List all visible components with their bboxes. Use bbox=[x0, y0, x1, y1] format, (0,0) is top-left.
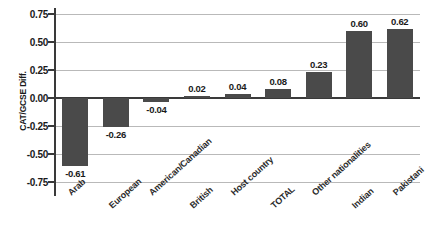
bar bbox=[225, 94, 251, 98]
bar-value-label: 0.60 bbox=[337, 18, 381, 29]
gridline bbox=[55, 154, 420, 155]
bar bbox=[265, 89, 291, 98]
bar-value-label: 0.02 bbox=[175, 83, 219, 94]
bar-value-label: 0.08 bbox=[256, 76, 300, 87]
x-axis-label: Other nationalities bbox=[310, 140, 373, 198]
bar-value-label: 0.23 bbox=[297, 59, 341, 70]
x-axis-label: Host country bbox=[229, 154, 275, 197]
y-tick-label: 0.75 bbox=[6, 9, 48, 20]
bar bbox=[387, 29, 413, 98]
bar bbox=[143, 98, 169, 102]
x-axis-label: TOTAL bbox=[269, 184, 297, 210]
y-tick-label: -0.50 bbox=[6, 149, 48, 160]
x-axis-label: British bbox=[188, 185, 215, 211]
bar bbox=[103, 98, 129, 127]
y-tick-label: 0.50 bbox=[6, 37, 48, 48]
plot-area: 0.750.500.250.00-0.25-0.50-0.75 CAT/GCSE… bbox=[0, 0, 426, 251]
bar-value-label: 0.62 bbox=[378, 16, 422, 27]
bar-value-label: -0.26 bbox=[94, 129, 138, 140]
bar bbox=[346, 31, 372, 98]
bar-value-label: -0.61 bbox=[53, 168, 97, 179]
bar bbox=[306, 72, 332, 98]
gridline bbox=[55, 14, 420, 15]
bar-value-label: 0.04 bbox=[216, 81, 260, 92]
x-axis-label: Indian bbox=[350, 186, 376, 210]
bar bbox=[62, 98, 88, 166]
bar-value-label: -0.04 bbox=[134, 104, 178, 115]
y-axis-title: CAT/GCSE Diff. bbox=[18, 56, 28, 146]
bar bbox=[184, 96, 210, 98]
chart-figure: 0.750.500.250.00-0.25-0.50-0.75 CAT/GCSE… bbox=[0, 0, 426, 251]
y-tick-label: -0.75 bbox=[6, 177, 48, 188]
x-axis-label: Arab bbox=[66, 177, 87, 198]
